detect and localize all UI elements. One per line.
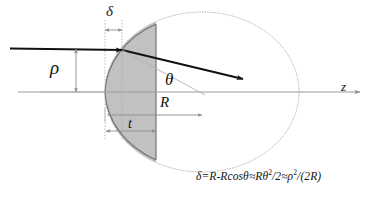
incoming-ray [10,49,122,51]
formula-part-5: /(2R) [297,170,321,182]
formula-caption: δ=R-Rcosθ≈Rθ2/2≈ρ2/(2R) [196,171,321,183]
formula-part-1: δ=R-Rcosθ [196,170,249,182]
label-axis-z: z [341,80,346,93]
formula-part-2: ≈Rθ [249,170,268,182]
label-radius: R [160,95,169,110]
label-rho: ρ [50,58,59,77]
figure-canvas [0,0,370,198]
label-delta: δ [106,4,113,19]
label-thickness: t [128,117,132,131]
formula-part-3: /2 [272,170,281,182]
formula-part-4: ≈ρ [281,170,293,182]
optics-diagram-figure: δ ρ θ R t z δ=R-Rcosθ≈Rθ2/2≈ρ2/(2R) [0,0,370,198]
label-theta: θ [165,71,173,88]
